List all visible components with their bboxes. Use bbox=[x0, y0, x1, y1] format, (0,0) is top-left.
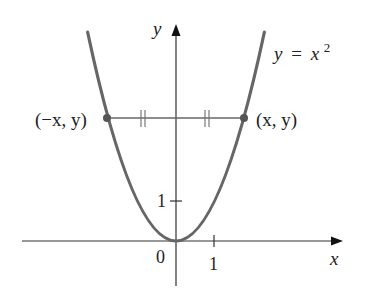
y-tick-label: 1 bbox=[157, 191, 166, 211]
right-point-label: (x, y) bbox=[256, 109, 297, 131]
origin-label: 0 bbox=[156, 247, 165, 267]
x-axis-arrow-icon bbox=[331, 237, 343, 246]
parabola-plot: y x 0 1 1 (−x, y) (x, y) y = x 2 bbox=[0, 0, 376, 308]
x-tick-label: 1 bbox=[209, 254, 218, 274]
x-axis-label: x bbox=[329, 248, 339, 269]
figure-even-function-parabola: y x 0 1 1 (−x, y) (x, y) y = x 2 bbox=[0, 0, 376, 308]
left-point bbox=[103, 114, 111, 122]
right-point bbox=[240, 114, 248, 122]
y-axis-arrow-icon bbox=[172, 24, 181, 36]
equation-label: y = x 2 bbox=[272, 40, 330, 64]
y-axis-label: y bbox=[151, 18, 162, 39]
left-point-label: (−x, y) bbox=[35, 109, 87, 131]
